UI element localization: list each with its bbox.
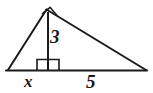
foot-right-angle-icon-right xyxy=(48,60,59,71)
right-leg-line xyxy=(47,10,147,71)
foot-right-angle-icon xyxy=(37,60,48,71)
triangle-diagram xyxy=(0,0,153,93)
base-left-segment-label: x xyxy=(24,73,33,90)
altitude-length-label: 3 xyxy=(50,27,60,46)
left-leg-line xyxy=(8,10,47,71)
geometry-figure: 3 x 5 xyxy=(0,0,153,93)
base-right-segment-label: 5 xyxy=(86,72,96,91)
